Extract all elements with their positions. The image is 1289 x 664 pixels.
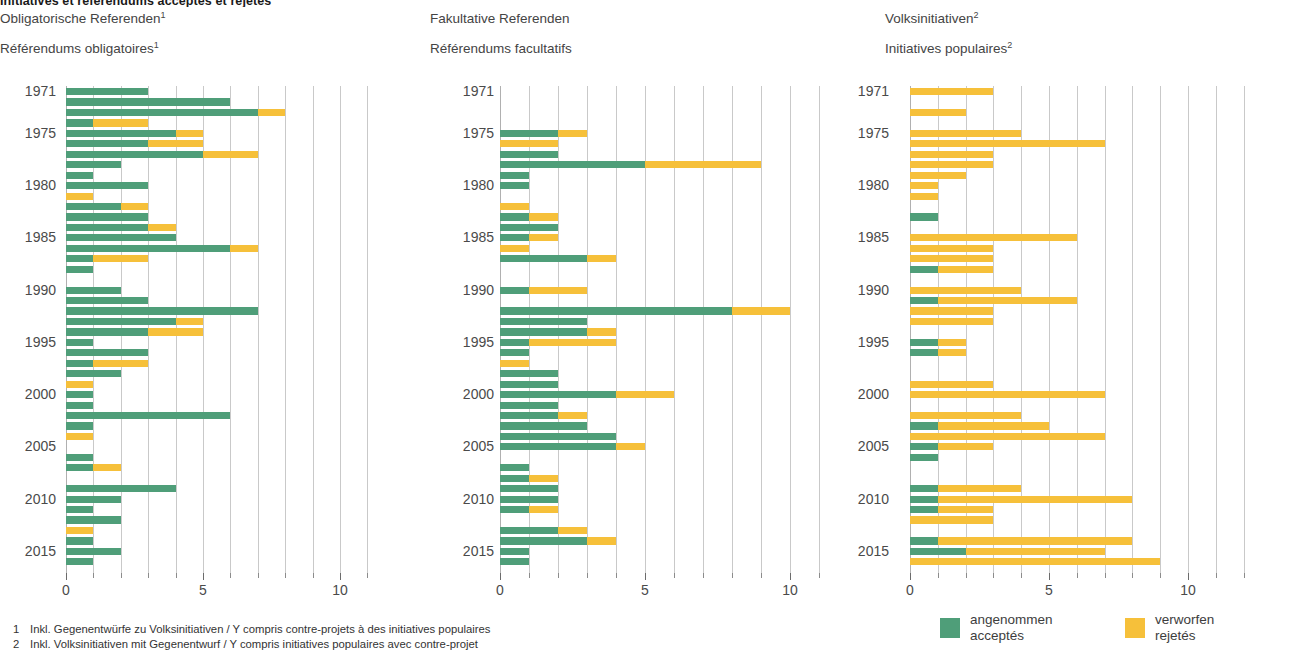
bar-segment-accepted xyxy=(66,203,121,210)
y-axis-tick-2015: 2015 xyxy=(858,545,889,557)
bar-1975 xyxy=(66,130,203,137)
bar-segment-rejected xyxy=(910,182,938,189)
bar-2008 xyxy=(500,475,558,482)
panel-header: Fakultative Referenden Référendums facul… xyxy=(430,4,885,64)
bar-segment-rejected xyxy=(66,193,93,200)
bar-segment-rejected xyxy=(558,527,587,534)
bar-1988 xyxy=(910,266,993,273)
x-axis-tick xyxy=(1077,573,1078,578)
bar-1976 xyxy=(910,140,1105,147)
bar-segment-rejected xyxy=(910,130,1021,137)
bar-segment-rejected xyxy=(910,391,1105,398)
bar-segment-accepted xyxy=(66,297,148,304)
panel-header: Obligatorische Referenden1 Référendums o… xyxy=(0,4,430,64)
bar-segment-accepted xyxy=(500,548,529,555)
bar-1992 xyxy=(66,307,258,314)
bar-2002 xyxy=(66,412,230,419)
bar-segment-accepted xyxy=(66,151,203,158)
bar-1973 xyxy=(910,109,966,116)
bar-1996 xyxy=(500,349,529,356)
panel-header: Volksinitiativen2 Initiatives populaires… xyxy=(885,4,1289,64)
bar-segment-accepted xyxy=(66,516,121,523)
bar-1987 xyxy=(500,255,616,262)
panel-heading-fr: Référendums obligatoires1 xyxy=(0,34,430,64)
y-axis-tick-2010: 2010 xyxy=(463,493,494,505)
bar-2010 xyxy=(66,496,121,503)
y-axis-tick-2015: 2015 xyxy=(463,545,494,557)
bar-segment-rejected xyxy=(910,172,966,179)
x-axis-label-5: 5 xyxy=(1045,582,1053,598)
footnote-number: 2 xyxy=(0,637,30,652)
y-axis-tick-1975: 1975 xyxy=(25,127,56,139)
bar-segment-accepted xyxy=(66,287,121,294)
bar-segment-accepted xyxy=(910,485,938,492)
legend-label-rejected-fr: rejetés xyxy=(1155,628,1214,644)
bar-1990 xyxy=(910,287,1021,294)
y-axis-tick-1985: 1985 xyxy=(463,231,494,243)
gridline xyxy=(1132,86,1133,573)
x-axis-tick xyxy=(66,573,67,580)
legend-item-accepted: angenommen acceptés xyxy=(940,612,1053,644)
bar-segment-rejected xyxy=(148,140,203,147)
bar-1976 xyxy=(500,140,558,147)
bar-2010 xyxy=(500,496,558,503)
x-axis-tick xyxy=(500,573,501,580)
panel-heading-de-text: Obligatorische Referenden xyxy=(0,11,161,26)
x-axis-tick xyxy=(703,573,704,578)
panel-heading-de-text: Fakultative Referenden xyxy=(430,11,570,26)
x-axis-tick xyxy=(790,573,791,580)
bar-1995 xyxy=(910,339,966,346)
footnote-marker-1: 1 xyxy=(161,10,166,20)
bar-segment-rejected xyxy=(616,443,645,450)
footnote-text: Inkl. Gegenentwürfe zu Volksinitiativen … xyxy=(30,622,490,637)
y-axis-tick-1985: 1985 xyxy=(858,231,889,243)
bar-2004 xyxy=(66,433,93,440)
bar-2001 xyxy=(66,402,93,409)
y-axis-tick-2015: 2015 xyxy=(25,545,56,557)
bar-segment-accepted xyxy=(66,161,121,168)
bar-segment-rejected xyxy=(910,161,993,168)
x-axis-tick xyxy=(1160,573,1161,578)
bar-2009 xyxy=(500,485,558,492)
bar-segment-rejected xyxy=(529,213,558,220)
gridline xyxy=(674,86,675,573)
bar-segment-rejected xyxy=(910,193,938,200)
bar-1981 xyxy=(66,193,93,200)
x-axis-label-10: 10 xyxy=(782,582,798,598)
y-axis-tick-1995: 1995 xyxy=(463,336,494,348)
bar-segment-accepted xyxy=(500,506,529,513)
bar-segment-rejected xyxy=(558,412,587,419)
bar-1980 xyxy=(910,182,938,189)
bar-segment-accepted xyxy=(910,266,938,273)
bar-segment-rejected xyxy=(910,516,993,523)
bar-segment-accepted xyxy=(500,130,558,137)
x-axis: 0510 xyxy=(500,573,818,593)
bar-segment-rejected xyxy=(121,203,148,210)
bar-1985 xyxy=(66,234,176,241)
bar-segment-rejected xyxy=(938,496,1133,503)
y-axis-tick-1971: 1971 xyxy=(463,85,494,97)
bar-1980 xyxy=(66,182,148,189)
bar-segment-accepted xyxy=(910,297,938,304)
bar-segment-accepted xyxy=(500,370,558,377)
bar-1981 xyxy=(910,193,938,200)
bar-segment-rejected xyxy=(500,360,529,367)
legend-label-accepted-fr: acceptés xyxy=(970,628,1053,644)
bar-segment-accepted xyxy=(66,485,176,492)
x-axis-tick xyxy=(761,573,762,578)
bar-2011 xyxy=(500,506,558,513)
x-axis-tick xyxy=(966,573,967,578)
footnote-marker-2: 2 xyxy=(974,10,979,20)
bar-segment-rejected xyxy=(938,297,1077,304)
x-axis-tick xyxy=(529,573,530,578)
legend-label-accepted: angenommen acceptés xyxy=(970,612,1053,644)
footnote-marker-1: 1 xyxy=(154,40,159,50)
bar-1985 xyxy=(500,234,558,241)
bar-segment-accepted xyxy=(66,370,121,377)
bar-segment-accepted xyxy=(500,287,529,294)
x-axis-label-0: 0 xyxy=(62,582,70,598)
footnote-number: 1 xyxy=(0,622,30,637)
bar-1978 xyxy=(500,161,761,168)
bar-1997 xyxy=(500,360,529,367)
bar-2009 xyxy=(66,485,176,492)
